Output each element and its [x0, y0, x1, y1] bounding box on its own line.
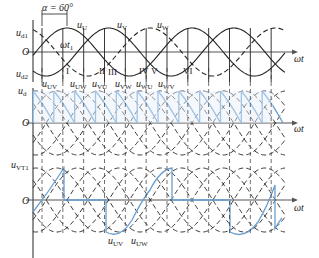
wt-axis-label-2: ωt: [294, 124, 304, 134]
wt-axis-label-1: ωt: [294, 54, 304, 64]
wt-axis-label-3: ωt: [294, 203, 304, 213]
segment-mark-I: I: [66, 67, 69, 76]
origin-label-1: O: [22, 47, 29, 57]
uVU-label: uVU: [92, 79, 107, 91]
uVW-label: uVW: [115, 79, 132, 91]
segment-mark-VI: VI: [183, 67, 193, 76]
rectifier-waveform-diagram: [0, 0, 319, 258]
segment-mark-III: III: [108, 68, 117, 77]
origin-label-2: O: [22, 118, 29, 128]
uWV-label: uWV: [158, 79, 175, 91]
uUW-label: uUW: [70, 79, 87, 91]
uUV-label: uUV: [42, 79, 57, 91]
uUW-bottom-label: uUW: [131, 236, 148, 248]
uV-label: uV: [117, 20, 127, 32]
uvt1-label: uVT1: [11, 160, 29, 172]
ud2-label: ud2: [16, 69, 28, 81]
segment-mark-II: II: [99, 67, 105, 76]
origin-label-3: O: [22, 196, 29, 206]
uU-label: uU: [77, 20, 87, 32]
uUV-bottom-label: uUV: [108, 236, 123, 248]
alpha-label: α = 60°: [42, 3, 73, 13]
segment-mark-V: V: [151, 67, 158, 76]
uW-label: uW: [157, 20, 169, 32]
uWU-label: uWU: [136, 79, 153, 91]
wt1-label: ωt1: [60, 40, 73, 52]
segment-mark-IV: IV: [139, 67, 149, 76]
ud1-label: ud1: [16, 28, 28, 40]
ud-label: ud: [18, 86, 27, 98]
